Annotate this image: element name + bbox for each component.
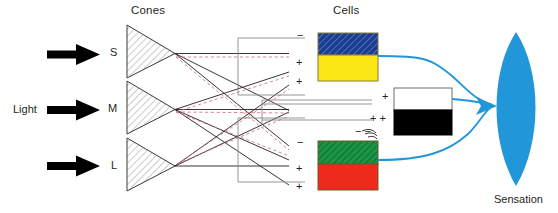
cones-title: Cones <box>131 5 165 17</box>
sign-red-plus-upper: + <box>296 163 302 174</box>
sign-red-plus-lower: + <box>296 181 302 192</box>
sign-black-plus-pair: + + <box>370 113 386 124</box>
cone-l <box>127 138 175 191</box>
cone-label-s: S <box>110 47 117 58</box>
cone-s <box>127 25 175 78</box>
light-arrow-s <box>47 44 100 65</box>
sensation-label: Sensation <box>494 194 543 205</box>
wiring-solid <box>175 54 289 186</box>
opponent-process-diagram: Cones Cells Light S M L Sensation − + + … <box>0 0 558 213</box>
sensation-lens <box>497 32 536 186</box>
sign-yellow-plus-lower: + <box>296 76 302 87</box>
light-arrow-l <box>47 156 100 177</box>
light-label: Light <box>13 104 37 115</box>
cone-label-l: L <box>111 160 117 171</box>
light-arrow-m <box>47 100 100 121</box>
sign-blue-minus: − <box>297 30 303 41</box>
cell-blue-yellow <box>318 33 378 81</box>
cone-m <box>127 81 175 134</box>
sign-yellow-plus-upper: + <box>296 57 302 68</box>
cell-white-black <box>394 88 452 135</box>
cells-title: Cells <box>333 5 360 17</box>
sign-white-plus: + <box>382 91 388 102</box>
sign-black-minus-pair: − − <box>355 126 371 137</box>
cell-green-red <box>318 141 378 190</box>
sign-green-minus: − <box>297 137 303 148</box>
cone-label-m: M <box>108 103 117 114</box>
diagram-canvas <box>0 0 558 213</box>
